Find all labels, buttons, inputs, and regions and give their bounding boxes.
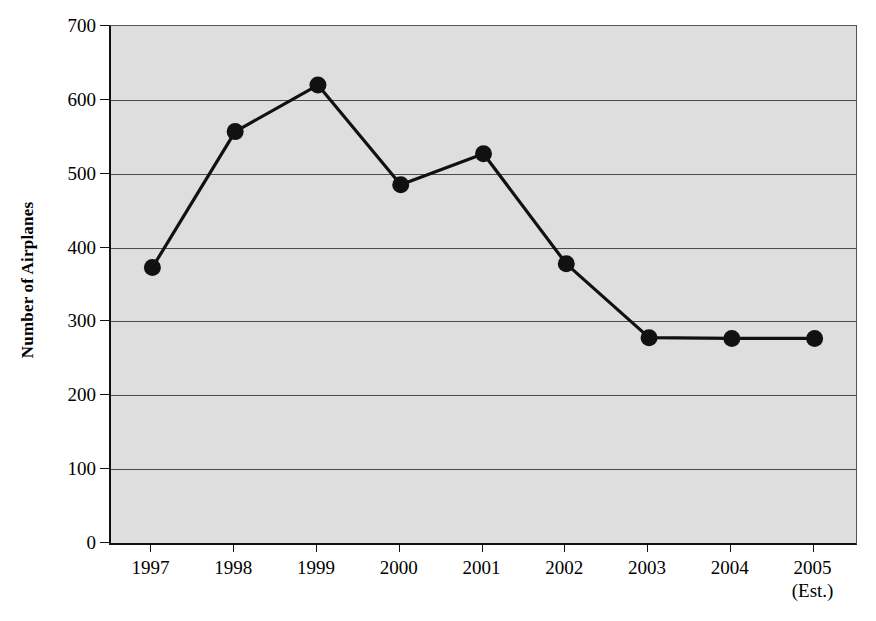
plot-area [109, 25, 857, 545]
data-series-layer [111, 26, 856, 543]
y-axis-tick-labels: 0100200300400500600700 [44, 0, 96, 621]
y-tick-mark [100, 173, 109, 174]
data-point-marker [723, 330, 740, 347]
y-axis-title-label: Number of Airplanes [18, 202, 38, 359]
x-tick-mark [150, 543, 151, 552]
data-point-marker [558, 255, 575, 272]
line-chart: Number of Airplanes 01002003004005006007… [0, 0, 876, 621]
x-tick-mark [813, 543, 814, 552]
y-tick-label: 100 [44, 459, 96, 478]
y-tick-label: 600 [44, 89, 96, 108]
series-line [152, 85, 814, 338]
data-point-marker [227, 123, 244, 140]
x-tick-mark [482, 543, 483, 552]
x-tick-mark [233, 543, 234, 552]
data-point-marker [392, 176, 409, 193]
series-markers [144, 77, 823, 347]
data-point-marker [641, 329, 658, 346]
data-point-marker [806, 330, 823, 347]
y-tick-mark [100, 25, 109, 26]
data-point-marker [144, 259, 161, 276]
data-point-marker [475, 145, 492, 162]
y-tick-label: 200 [44, 385, 96, 404]
y-tick-label: 400 [44, 237, 96, 256]
x-tick-mark [399, 543, 400, 552]
y-tick-label: 300 [44, 311, 96, 330]
x-axis-tick-labels: 199719981999200020012002200320042005(Est… [109, 556, 854, 618]
y-tick-mark [100, 320, 109, 321]
x-tick-mark [564, 543, 565, 552]
y-tick-mark [100, 542, 109, 543]
x-tick-mark [316, 543, 317, 552]
y-tick-mark [100, 468, 109, 469]
y-tick-mark [100, 394, 109, 395]
y-tick-label: 700 [44, 16, 96, 35]
y-tick-label: 500 [44, 163, 96, 182]
x-tick-label: 2005(Est.) [753, 556, 873, 602]
y-tick-mark [100, 247, 109, 248]
x-tick-mark [647, 543, 648, 552]
y-tick-mark [100, 99, 109, 100]
x-axis-tick-marks [109, 543, 854, 553]
data-point-marker [309, 77, 326, 94]
x-tick-mark [730, 543, 731, 552]
y-tick-label: 0 [44, 533, 96, 552]
x-tick-label-note: (Est.) [753, 579, 873, 602]
x-tick-label-year: 2005 [753, 556, 873, 579]
